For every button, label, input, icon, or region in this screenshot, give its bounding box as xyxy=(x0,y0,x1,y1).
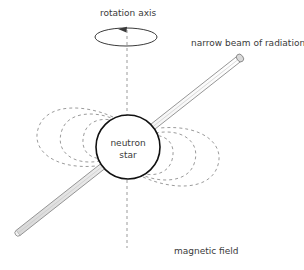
neutron-star-label-line2: star xyxy=(119,150,137,160)
rotation-axis-label: rotation axis xyxy=(100,8,156,18)
magnetic-field-label: magnetic field xyxy=(174,246,239,256)
pulsar-diagram: rotation axis narrow beam of radiation m… xyxy=(0,0,304,270)
rotation-direction-indicator xyxy=(95,27,157,46)
diagram-canvas: rotation axis narrow beam of radiation m… xyxy=(0,0,304,270)
radiation-beam-label: narrow beam of radiation xyxy=(191,38,304,48)
neutron-star-label-line1: neutron xyxy=(110,138,145,148)
